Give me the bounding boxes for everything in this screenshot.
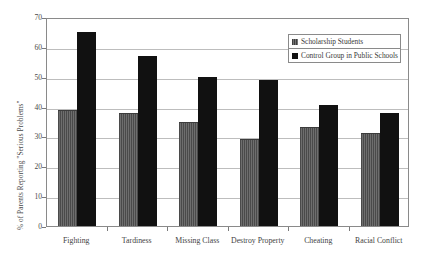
chart-legend: Scholarship Students Control Group in Pu… <box>288 34 401 63</box>
y-tick-label: 0 <box>16 223 42 231</box>
x-tick-mark <box>288 227 289 231</box>
bar-series-a <box>179 122 198 227</box>
bar-group <box>119 19 157 226</box>
bar-series-b <box>198 77 217 226</box>
bar-group <box>58 19 96 226</box>
x-tick-mark <box>228 227 229 231</box>
x-tick-label: Tardiness <box>107 236 168 246</box>
x-tick-label: Cheating <box>288 236 349 246</box>
bar-series-b <box>380 113 399 226</box>
x-tick-label: Racial Conflict <box>349 236 410 246</box>
bar-group <box>179 19 217 226</box>
y-tick-label: 40 <box>16 104 42 112</box>
bar-series-b <box>319 105 338 226</box>
bar-series-a <box>240 139 259 226</box>
gridline <box>47 138 408 139</box>
x-tick-mark <box>167 227 168 231</box>
bar-group <box>240 19 278 226</box>
gridline <box>47 168 408 169</box>
x-tick-mark <box>107 227 108 231</box>
legend-label-series-a: Scholarship Students <box>301 37 363 46</box>
y-tick-label: 70 <box>16 14 42 22</box>
bar-chart-figure: % of Parents Reporting "Serious Problems… <box>0 0 424 265</box>
x-tick-label: Destroy Property <box>228 236 289 246</box>
bar-series-a <box>58 110 77 226</box>
y-tick-label: 50 <box>16 74 42 82</box>
legend-item-control-group: Control Group in Public Schools <box>289 48 400 62</box>
legend-item-scholarship-students: Scholarship Students <box>289 35 400 48</box>
y-tick-label: 30 <box>16 133 42 141</box>
bar-series-a <box>300 127 319 226</box>
legend-label-series-b: Control Group in Public Schools <box>301 51 398 60</box>
x-tick-label: Fighting <box>46 236 107 246</box>
bar-series-b <box>138 56 157 226</box>
gridline <box>47 198 408 199</box>
bar-series-a <box>119 113 138 226</box>
bar-series-b <box>259 80 278 226</box>
gridline <box>47 79 408 80</box>
bar-series-b <box>77 32 96 226</box>
x-tick-label: Missing Class <box>167 236 228 246</box>
gridline <box>47 109 408 110</box>
bar-series-a <box>361 133 380 226</box>
y-tick-mark <box>42 227 46 228</box>
legend-swatch-icon-series-a <box>292 39 298 45</box>
x-tick-mark <box>349 227 350 231</box>
y-tick-label: 10 <box>16 193 42 201</box>
y-tick-label: 20 <box>16 163 42 171</box>
y-tick-label: 60 <box>16 44 42 52</box>
legend-swatch-icon-series-b <box>292 53 298 59</box>
